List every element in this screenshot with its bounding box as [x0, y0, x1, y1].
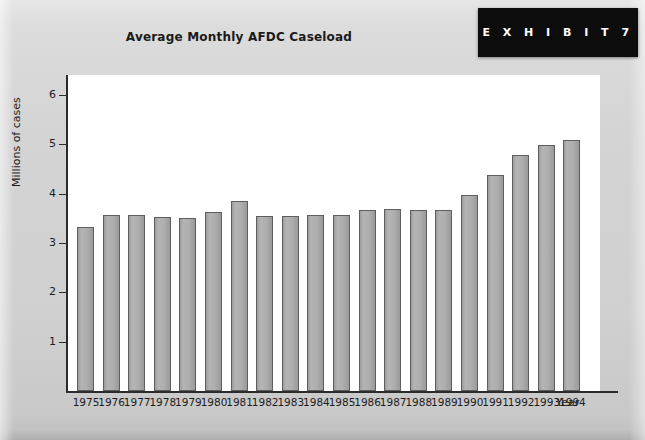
- bar: [77, 227, 94, 391]
- bar: [179, 218, 196, 391]
- bar: [538, 145, 555, 391]
- x-axis-line: [66, 391, 618, 393]
- x-axis-title: Year: [556, 396, 579, 409]
- bar: [205, 212, 222, 391]
- bar: [333, 215, 350, 391]
- x-axis-tick-labels: 1975197619771978197919801981198219831984…: [66, 396, 626, 416]
- chart-plot-area: Millions of cases 123456: [66, 75, 621, 392]
- bar: [359, 210, 376, 391]
- y-axis-tick-label: 3: [32, 236, 56, 249]
- bar: [231, 201, 248, 391]
- bar: [128, 215, 145, 391]
- y-axis-tick: [59, 292, 66, 293]
- exhibit-banner: E X H I B I T 7: [478, 8, 638, 57]
- bar: [307, 215, 324, 391]
- bar: [154, 217, 171, 391]
- bar: [435, 210, 452, 391]
- exhibit-banner-label: E X H I B I T 7: [482, 26, 633, 39]
- bar-series: [68, 75, 600, 391]
- y-axis-tick: [59, 144, 66, 145]
- chart-title: Average Monthly AFDC Caseload: [0, 30, 478, 44]
- bar: [410, 210, 427, 391]
- bar: [461, 195, 478, 391]
- bar: [384, 209, 401, 391]
- y-axis-tick-label: 6: [32, 88, 56, 101]
- y-axis-tick: [59, 194, 66, 195]
- exhibit-page: E X H I B I T 7 Average Monthly AFDC Cas…: [0, 0, 645, 440]
- y-axis-tick-label: 2: [32, 285, 56, 298]
- y-axis-tick-label: 1: [32, 335, 56, 348]
- bar: [563, 140, 580, 391]
- bar: [512, 155, 529, 391]
- y-axis-tick-label: 4: [32, 187, 56, 200]
- bar: [282, 216, 299, 391]
- y-axis-tick: [59, 95, 66, 96]
- bar: [487, 175, 504, 391]
- y-axis-title: Millions of cases: [10, 97, 23, 187]
- y-axis-tick: [59, 243, 66, 244]
- y-axis-tick: [59, 342, 66, 343]
- y-axis-tick-label: 5: [32, 137, 56, 150]
- bar: [256, 216, 273, 391]
- bar: [103, 215, 120, 391]
